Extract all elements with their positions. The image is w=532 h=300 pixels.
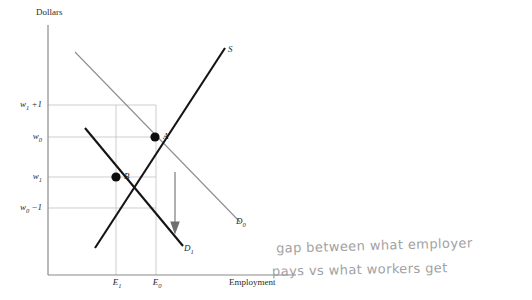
y-tick-w1: w1 [0,171,42,183]
curve-label-s: S [228,44,233,54]
equilibrium-point-b [111,172,120,181]
x-axis-title: Employment [229,277,276,287]
equilibrium-point-a [150,132,159,141]
y-tick-w1-plus-1: w1 +1 [0,99,42,111]
curve-label-d0: D0 [236,216,246,228]
point-label-a: A [163,131,169,141]
x-tick-e1: E1 [108,277,126,289]
y-axis-title: Dollars [36,7,63,17]
curve-label-d1: D1 [184,243,194,255]
point-label-b: B [124,171,130,181]
labor-market-diagram [0,0,532,300]
y-tick-w0-minus-1: w0 −1 [0,202,42,214]
x-tick-e0: E0 [148,277,166,289]
downward-shift-arrow-icon [171,172,179,233]
y-tick-w0: w0 [0,131,42,143]
